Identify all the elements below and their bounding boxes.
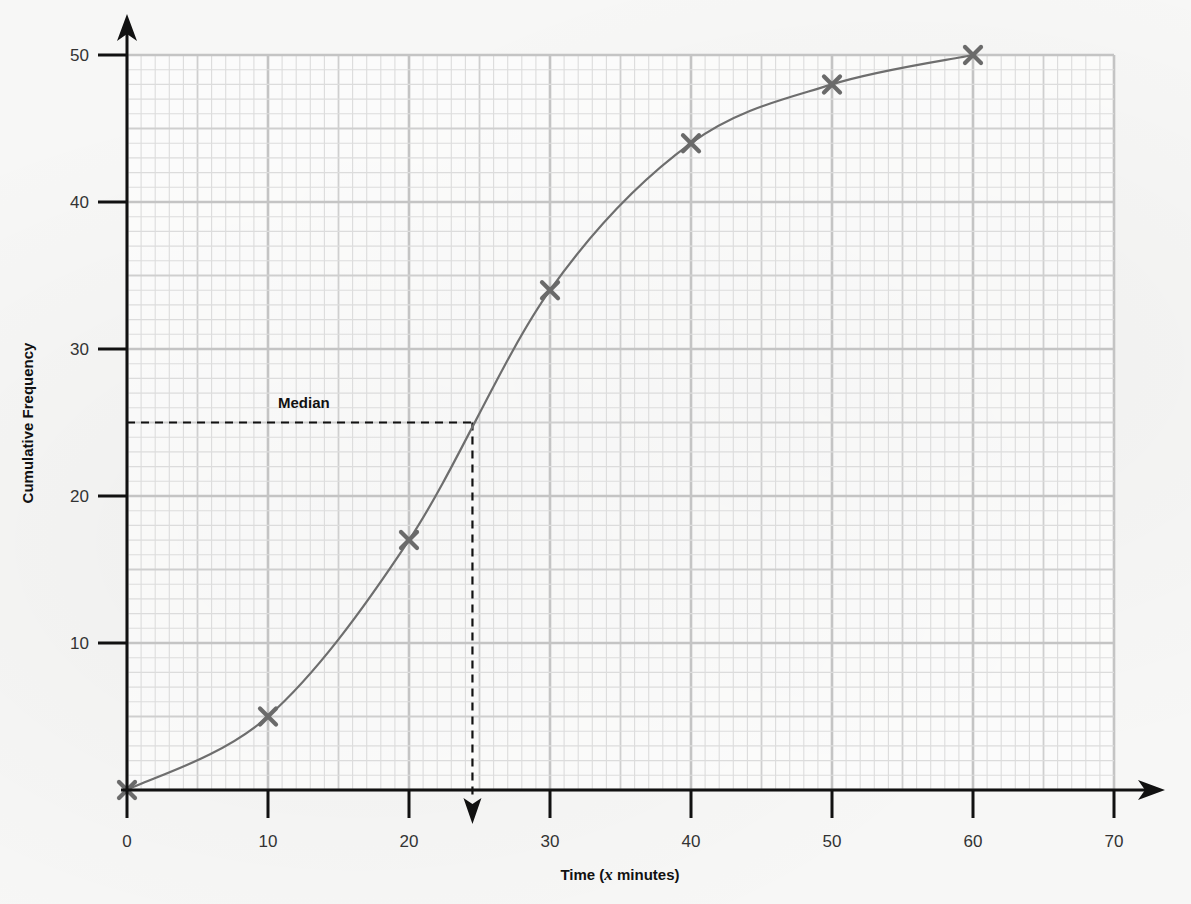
median-arrow-down-icon <box>463 798 481 824</box>
y-tick-label: 10 <box>70 634 89 653</box>
y-tick-label: 50 <box>70 46 89 65</box>
median-label: Median <box>278 394 330 411</box>
x-tick-label: 20 <box>400 832 419 851</box>
x-tick-label: 60 <box>964 832 983 851</box>
x-tick-label: 0 <box>122 832 131 851</box>
cumulative-frequency-chart: 010203040506070 1020304050 Median Time (… <box>0 0 1191 904</box>
y-axis-ticks: 1020304050 <box>70 46 127 653</box>
x-axis-ticks: 010203040506070 <box>122 790 1123 851</box>
graph-paper-grid <box>127 55 1114 790</box>
x-tick-label: 10 <box>259 832 278 851</box>
y-tick-label: 40 <box>70 193 89 212</box>
y-axis-title: Cumulative Frequency <box>19 342 36 504</box>
x-tick-label: 30 <box>541 832 560 851</box>
y-tick-label: 20 <box>70 487 89 506</box>
y-tick-label: 30 <box>70 340 89 359</box>
x-axis-title: Time (x minutes) <box>560 865 679 884</box>
x-tick-label: 70 <box>1105 832 1124 851</box>
x-tick-label: 40 <box>682 832 701 851</box>
x-tick-label: 50 <box>823 832 842 851</box>
